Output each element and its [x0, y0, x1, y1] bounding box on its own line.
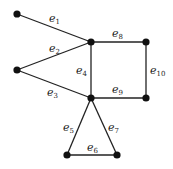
graph-diagram: e1e2e3e4e5e6e7e8e9e10	[0, 0, 173, 169]
vertex-v1	[13, 10, 20, 17]
edge-label-e8: e8	[112, 27, 123, 41]
edge-label-e5: e5	[63, 121, 74, 135]
vertex-v4	[142, 38, 149, 45]
edge-label-e6: e6	[87, 141, 99, 155]
edge-label-e2: e2	[49, 42, 60, 56]
vertex-v6	[142, 94, 149, 101]
edge-label-e1: e1	[49, 12, 60, 26]
vertex-v3	[87, 38, 94, 45]
vertex-v2	[13, 66, 20, 73]
vertex-v5	[87, 94, 94, 101]
vertex-v7	[63, 151, 70, 158]
vertex-v8	[113, 151, 120, 158]
edge-label-e10: e10	[150, 64, 165, 78]
edge-label-e4: e4	[76, 64, 88, 78]
edge-label-e9: e9	[112, 83, 123, 97]
edge-label-e3: e3	[47, 86, 58, 100]
edge-label-e7: e7	[108, 121, 119, 135]
